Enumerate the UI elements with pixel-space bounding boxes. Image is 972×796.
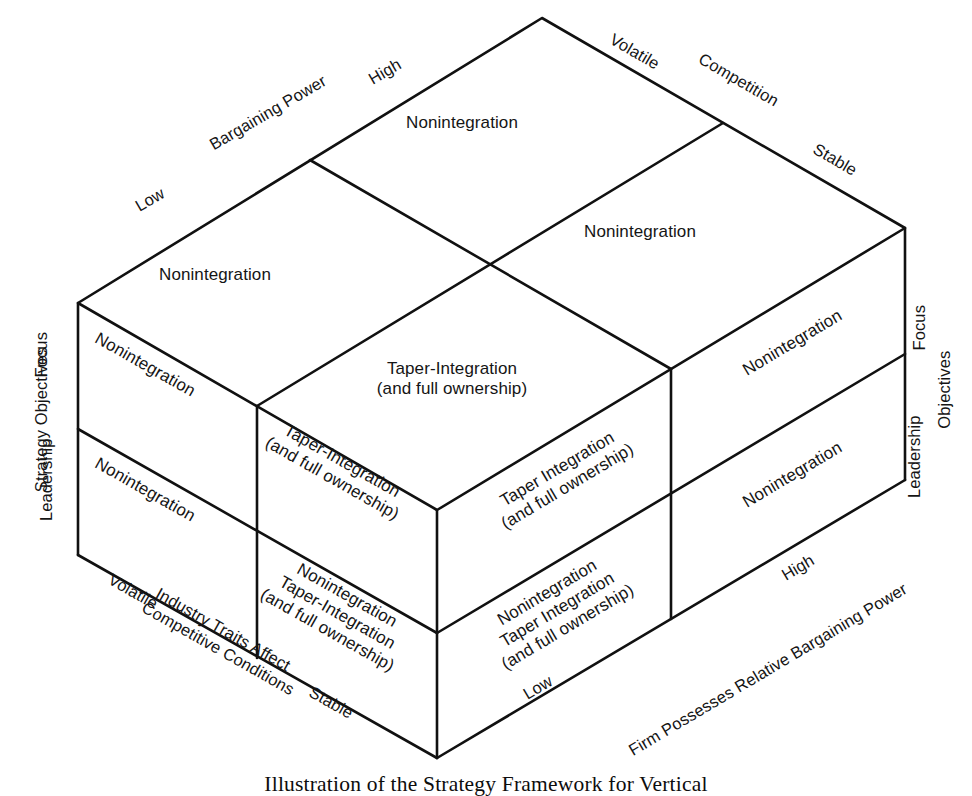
figure-caption: Illustration of the Strategy Framework f… <box>0 772 972 796</box>
axis-tick-left-focus: Focus <box>32 320 51 390</box>
top-face-cell-front-left: Nonintegration <box>105 265 325 285</box>
top-face-cell-front-right: Taper-Integration (and full ownership) <box>337 359 567 399</box>
axis-tick-right-leadership: Leadership <box>905 402 924 512</box>
axis-label-objectives: Objectives <box>935 315 954 465</box>
top-face-cell-back-right: Nonintegration <box>530 222 750 242</box>
axis-tick-right-focus: Focus <box>910 293 929 363</box>
axis-tick-left-leadership: Leadership <box>37 425 56 535</box>
figure-root: Nonintegration Nonintegration Nonintegra… <box>0 0 972 796</box>
top-face-cell-back-left: Nonintegration <box>352 113 572 133</box>
